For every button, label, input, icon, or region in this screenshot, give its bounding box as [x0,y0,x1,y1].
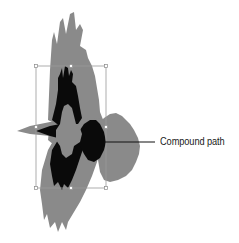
diagram-canvas [0,0,239,243]
handle-middle-right[interactable] [105,126,108,129]
callout-label: Compound path [160,135,225,147]
handle-top-left[interactable] [35,65,38,68]
handle-bottom-left[interactable] [35,187,38,190]
handle-bottom-right[interactable] [105,187,108,190]
handle-bottom-middle[interactable] [70,187,73,190]
handle-top-right[interactable] [105,65,108,68]
handle-top-middle[interactable] [70,65,73,68]
handle-middle-left[interactable] [35,126,38,129]
